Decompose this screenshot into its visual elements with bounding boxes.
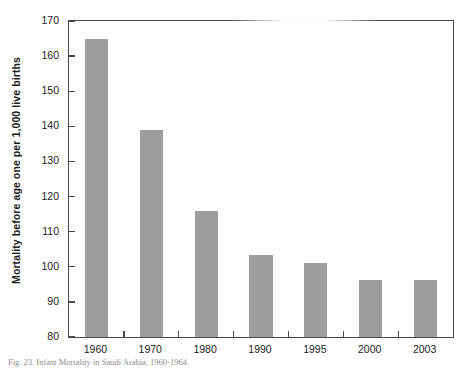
x-axis-category-label: 1970 [123, 343, 178, 355]
x-axis-tick-mark [398, 331, 399, 337]
y-axis-tick-label: 150 [19, 84, 59, 96]
x-axis-category-label: 1990 [233, 343, 288, 355]
x-axis-tick-mark [178, 331, 179, 337]
x-axis-category-label: 2003 [397, 343, 452, 355]
x-axis-category-label: 1960 [68, 343, 123, 355]
x-axis-tick-mark [233, 331, 234, 337]
y-axis-tick-mark [69, 161, 75, 162]
y-axis-tick-mark [69, 91, 75, 92]
x-axis-category-label: 1980 [178, 343, 233, 355]
y-axis-tick-label: 120 [19, 190, 59, 202]
y-axis-tick-mark [69, 231, 75, 232]
figure: Mortality before age one per 1,000 live … [0, 0, 464, 369]
y-axis-tick-label: 100 [19, 260, 59, 272]
x-axis-tick-mark [288, 331, 289, 337]
scan-artifact [229, 19, 379, 23]
bar [85, 39, 108, 337]
x-axis-tick-mark [123, 331, 124, 337]
y-axis-tick-label: 130 [19, 154, 59, 166]
y-axis-tick-label: 80 [19, 330, 59, 342]
x-axis-category-label: 2000 [342, 343, 397, 355]
y-axis-tick-mark [69, 20, 75, 21]
y-axis-tick-label: 160 [19, 49, 59, 61]
bar [249, 255, 272, 337]
y-axis-tick-label: 170 [19, 14, 59, 26]
y-axis-title-label: Mortality before age one per 1,000 live … [10, 57, 22, 284]
y-axis-tick-mark [69, 126, 75, 127]
y-axis-tick-label: 140 [19, 119, 59, 131]
bar [414, 280, 437, 337]
y-axis-tick-mark [69, 266, 75, 267]
bar [140, 130, 163, 337]
y-axis-tick-mark [69, 301, 75, 302]
bar [359, 280, 382, 337]
y-axis-tick-mark [69, 55, 75, 56]
y-axis-title: Mortality before age one per 1,000 live … [6, 0, 26, 340]
y-axis-tick-mark [69, 336, 75, 337]
figure-caption: Fig. 23. Infant Mortality in Saudi Arabi… [8, 357, 458, 369]
y-axis-tick-mark [69, 196, 75, 197]
y-axis-tick-label: 110 [19, 225, 59, 237]
x-axis-category-label: 1995 [287, 343, 342, 355]
plot-area: 8090100110120130140150160170 [68, 20, 454, 338]
x-axis-tick-mark [343, 331, 344, 337]
bar [304, 263, 327, 337]
y-axis-tick-label: 90 [19, 295, 59, 307]
bar [195, 211, 218, 337]
